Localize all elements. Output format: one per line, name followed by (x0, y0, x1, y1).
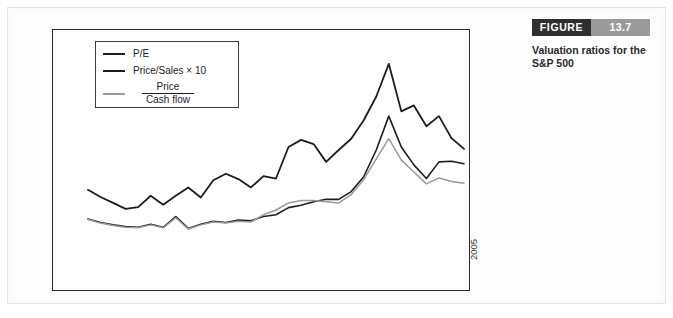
figure-badge-number: 13.7 (591, 19, 650, 36)
legend-label-price-sales: Price/Sales × 10 (133, 64, 206, 78)
legend-swatch-pe (103, 53, 125, 55)
figure-caption: Valuation ratios for the S&P 500 (532, 44, 657, 70)
legend-fraction-denominator: Cash flow (133, 94, 203, 106)
legend-swatch-price-sales (103, 70, 125, 72)
chart-legend: P/E Price/Sales × 10 Price Cash flow (95, 41, 239, 108)
figure-page: Ratio 0510152025303519751977197919811983… (0, 0, 673, 318)
chart-line-price-sales-10 (88, 116, 464, 228)
legend-label-pe: P/E (133, 47, 149, 61)
figure-badge: FIGURE 13.7 (532, 19, 650, 36)
legend-swatch-price-cashflow (103, 93, 125, 95)
figure-badge-label: FIGURE (532, 19, 591, 36)
legend-label-price-cashflow: Price Cash flow (133, 81, 203, 106)
legend-fraction-numerator: Price (142, 81, 194, 94)
